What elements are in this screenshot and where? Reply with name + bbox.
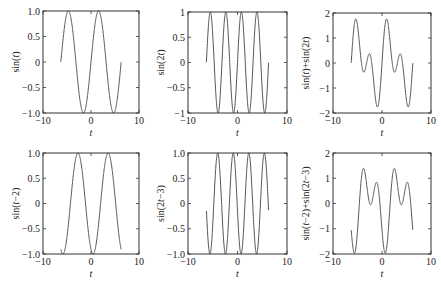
y-tick-label: −0.5	[167, 223, 185, 234]
subplot-figure: −100101.00.50−0.5−1.0tsin(t)−1001010.50−…	[0, 0, 441, 288]
data-line	[351, 19, 413, 107]
y-tick-label: −2	[319, 108, 330, 119]
y-tick-label: 0	[180, 198, 185, 209]
x-tick-label: 0	[380, 115, 385, 126]
y-tick-label: 0.5	[28, 173, 41, 184]
y-tick-label: −0.5	[22, 223, 40, 234]
x-tick-label: 10	[134, 256, 144, 267]
x-tick-label: 10	[426, 115, 436, 126]
y-tick-label: −1	[174, 108, 185, 119]
data-line	[206, 153, 268, 254]
y-tick-label: 0.5	[173, 173, 186, 184]
x-tick-label: 10	[134, 115, 144, 126]
subplot-6: −10010210−1−2tsin(t−2)+sin(2t−3)	[300, 148, 436, 280]
y-tick-label: −2	[319, 249, 330, 260]
y-tick-label: −0.5	[167, 82, 185, 93]
y-tick-label: −1.0	[167, 249, 185, 260]
x-axis-label: t	[90, 268, 93, 279]
y-axis-label: sin(2t−3)	[155, 185, 167, 222]
data-line	[61, 153, 121, 254]
x-tick-label: 0	[89, 256, 94, 267]
y-tick-label: 1	[325, 33, 330, 44]
x-axis-label: t	[90, 127, 93, 138]
y-tick-label: 0	[35, 57, 40, 68]
y-tick-label: 0.5	[173, 32, 186, 43]
y-tick-label: 1.0	[173, 148, 186, 159]
y-tick-label: 1.0	[28, 148, 41, 159]
subplot-5: −100101.00.50−0.5−1.0tsin(2t−3)	[155, 148, 292, 280]
x-tick-label: 0	[235, 256, 240, 267]
y-tick-label: −0.5	[22, 82, 40, 93]
data-line	[61, 11, 121, 113]
y-tick-label: 0	[325, 198, 330, 209]
x-tick-label: 10	[282, 256, 292, 267]
y-tick-label: 1.0	[28, 6, 41, 17]
subplot-3: −10010210−1−2tsin(t)+sin(2t)	[300, 8, 436, 139]
y-axis-label: sin(t)+sin(2t)	[300, 37, 312, 90]
y-tick-label: 1	[180, 7, 185, 18]
y-axis-label: sin(t)	[10, 51, 22, 72]
y-axis-label: sin(2t)	[155, 49, 167, 75]
subplot-1: −100101.00.50−0.5−1.0tsin(t)	[10, 6, 144, 139]
x-axis-label: t	[236, 127, 239, 138]
y-tick-label: 0	[180, 57, 185, 68]
y-tick-label: 0	[35, 198, 40, 209]
x-axis-label: t	[381, 127, 384, 138]
y-tick-label: −1	[319, 223, 330, 234]
x-tick-label: 10	[426, 256, 436, 267]
data-line	[206, 12, 268, 113]
x-tick-label: 0	[89, 115, 94, 126]
y-tick-label: 2	[325, 148, 330, 159]
axes-box	[43, 153, 139, 254]
x-tick-label: 0	[235, 115, 240, 126]
x-tick-label: 10	[282, 115, 292, 126]
subplot-2: −1001010.50−0.5−1tsin(2t)	[155, 7, 292, 139]
y-tick-label: 0	[325, 58, 330, 69]
y-axis-label: sin(t−2)+sin(2t−3)	[300, 166, 312, 240]
y-tick-label: 1	[325, 173, 330, 184]
y-axis-label: sin(t−2)	[10, 188, 22, 220]
data-line	[351, 168, 413, 253]
y-tick-label: 2	[325, 8, 330, 19]
x-axis-label: t	[381, 268, 384, 279]
y-tick-label: 0.5	[28, 31, 41, 42]
y-tick-label: −1.0	[22, 249, 40, 260]
y-tick-label: −1	[319, 83, 330, 94]
x-tick-label: 0	[380, 256, 385, 267]
subplot-4: −100101.00.50−0.5−1.0tsin(t−2)	[10, 148, 144, 280]
y-tick-label: −1.0	[22, 108, 40, 119]
axes-box	[333, 153, 431, 254]
x-axis-label: t	[236, 268, 239, 279]
